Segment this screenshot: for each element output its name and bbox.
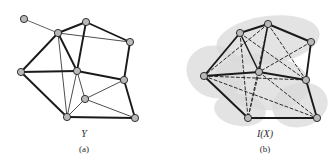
graph-edge: [24, 19, 58, 33]
graph-node: [73, 67, 80, 74]
graph-node: [126, 38, 133, 45]
graph-edge: [77, 22, 86, 71]
graph-edge: [124, 42, 130, 80]
graph-figure-svg: Y (a) I(X) (b): [0, 0, 332, 161]
graph-edge: [58, 33, 77, 71]
graph-node: [17, 68, 24, 75]
graph-edge: [77, 71, 85, 99]
panel-a-graph: [17, 15, 138, 121]
graph-node: [302, 76, 309, 83]
graph-node: [54, 29, 61, 36]
panel-b-symbol-label: I(X): [256, 128, 274, 140]
panel-a-caption-label: (a): [79, 144, 89, 154]
panel-a-symbol-label: Y: [81, 128, 88, 139]
graph-node: [307, 38, 314, 45]
graph-edge: [77, 71, 124, 80]
graph-node: [20, 15, 27, 22]
graph-edge: [21, 33, 58, 72]
graph-node: [255, 68, 262, 75]
graph-edge: [58, 33, 67, 117]
graph-node: [264, 20, 271, 27]
graph-edge: [124, 80, 135, 118]
graph-node: [200, 72, 207, 79]
graph-edge: [85, 99, 135, 118]
graph-edge: [67, 117, 135, 118]
figure-container: Y (a) I(X) (b): [0, 0, 332, 161]
graph-node: [236, 29, 243, 36]
graph-node: [81, 95, 88, 102]
graph-edge: [21, 71, 77, 72]
graph-node: [244, 114, 251, 121]
graph-node: [120, 76, 127, 83]
panel-b-caption-label: (b): [260, 144, 271, 154]
graph-edge: [67, 71, 77, 117]
graph-edge: [58, 22, 86, 33]
graph-edge: [85, 80, 124, 99]
graph-node: [82, 18, 89, 25]
graph-edge: [21, 72, 67, 117]
graph-node: [313, 114, 320, 121]
graph-node: [63, 113, 70, 120]
graph-node: [131, 114, 138, 121]
